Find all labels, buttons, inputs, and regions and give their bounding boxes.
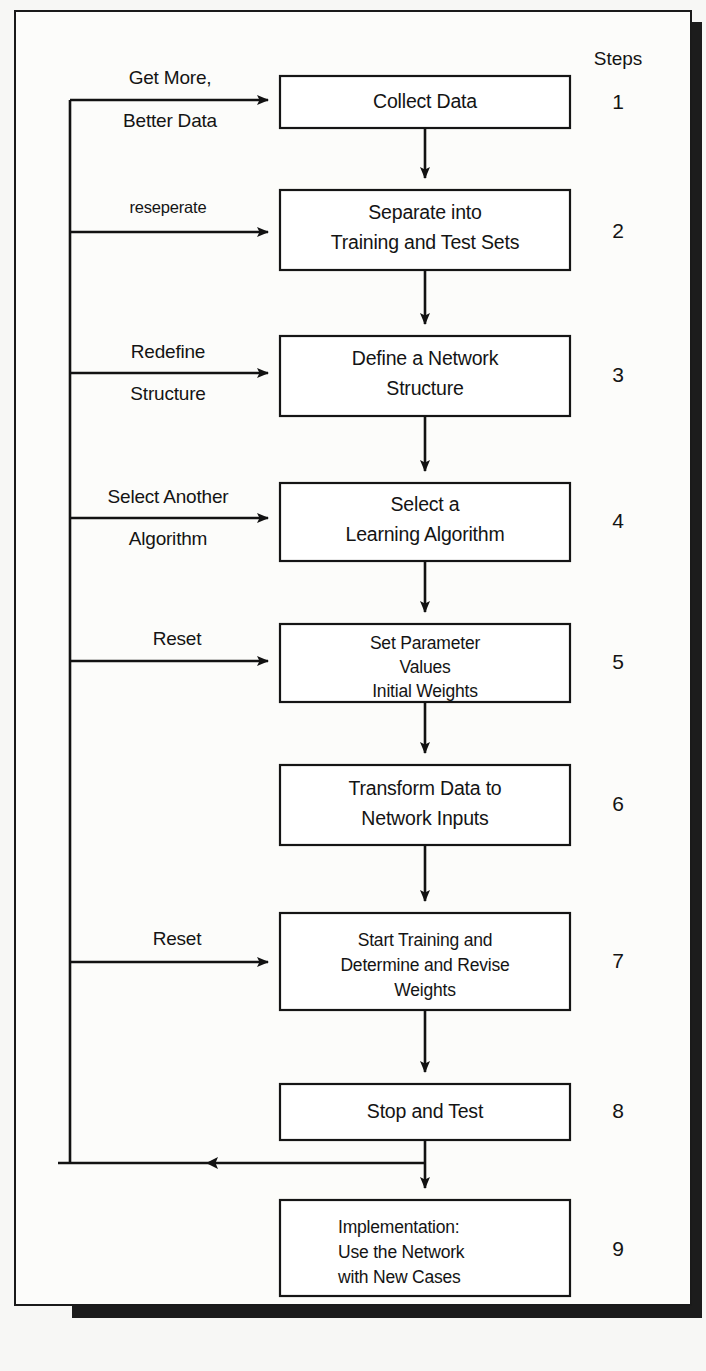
flow-node-6[interactable]: Transform Data to Network Inputs [280,765,570,845]
feedback-label-3-line-0: Redefine [131,341,205,362]
feedback-label-3-line-1: Structure [130,383,205,404]
flow-node-1-line-0: Collect Data [373,90,477,112]
diagram-page: Collect Data Separate into Training and … [0,0,706,1371]
feedback-label-5-line-0: Reset [153,628,203,649]
feedback-label-4-line-1: Algorithm [129,528,207,549]
frame-shadow-bottom [72,1306,702,1318]
flow-node-7[interactable]: Start Training and Determine and Revise … [280,913,570,1010]
flow-node-3[interactable]: Define a Network Structure [280,336,570,416]
flow-node-2[interactable]: Separate into Training and Test Sets [280,190,570,270]
flow-node-9-line-2: with New Cases [337,1267,461,1287]
step-number-3: 3 [612,363,624,386]
flow-node-7-line-2: Weights [394,980,456,1000]
feedback-label-7-line-0: Reset [153,928,203,949]
step-number-1: 1 [612,90,624,113]
frame-shadow-right [692,22,702,1312]
step-number-7: 7 [612,949,624,972]
flow-node-3-line-1: Structure [386,377,463,399]
flow-node-8-line-0: Stop and Test [367,1100,484,1122]
flow-node-5[interactable]: Set Parameter Values Initial Weights [280,624,570,702]
step-number-8: 8 [612,1099,624,1122]
flow-node-1[interactable]: Collect Data [280,76,570,128]
flow-node-9[interactable]: Implementation: Use the Network with New… [280,1200,570,1296]
flow-node-8[interactable]: Stop and Test [280,1084,570,1140]
flow-node-6-line-1: Network Inputs [361,807,489,829]
flow-node-2-line-1: Training and Test Sets [331,231,520,253]
feedback-label-1-line-1: Better Data [123,110,218,131]
flow-node-4-line-1: Learning Algorithm [346,523,505,545]
feedback-label-4-line-0: Select Another [108,486,230,507]
step-number-6: 6 [612,792,624,815]
flow-node-3-line-0: Define a Network [352,347,499,369]
steps-column-header: Steps [594,48,643,69]
flow-node-9-line-0: Implementation: [338,1217,460,1237]
flow-node-7-line-0: Start Training and [358,930,493,950]
flow-node-4[interactable]: Select a Learning Algorithm [280,483,570,561]
flow-node-2-line-0: Separate into [368,201,482,223]
feedback-label-1-line-0: Get More, [129,67,212,88]
step-number-9: 9 [612,1237,624,1260]
flow-node-6-line-0: Transform Data to [348,777,501,799]
flowchart-canvas: Collect Data Separate into Training and … [0,0,706,1371]
flow-node-5-line-1: Values [399,657,450,677]
step-number-5: 5 [612,650,624,673]
step-number-2: 2 [612,219,624,242]
flow-node-7-line-1: Determine and Revise [340,955,509,975]
flow-node-4-line-0: Select a [391,493,460,515]
feedback-label-2-line-0: reseperate [130,198,207,216]
flow-node-5-line-0: Set Parameter [370,633,481,653]
flow-node-9-line-1: Use the Network [338,1242,465,1262]
step-number-4: 4 [612,509,624,532]
flow-node-5-line-2: Initial Weights [372,681,478,701]
